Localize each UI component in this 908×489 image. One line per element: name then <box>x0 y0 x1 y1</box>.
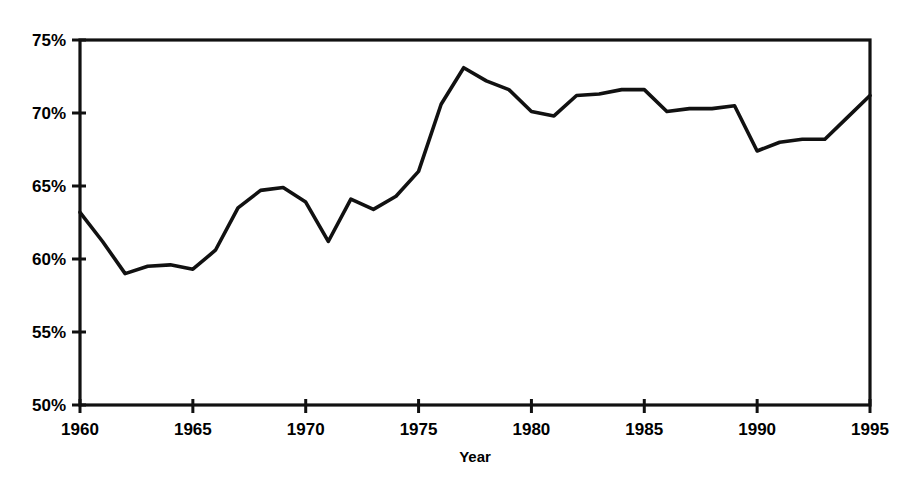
x-tick-label: 1990 <box>738 420 776 439</box>
y-tick-label: 70% <box>32 104 66 123</box>
plot-area-frame <box>80 40 870 405</box>
x-tick-label: 1965 <box>174 420 212 439</box>
x-tick-label: 1985 <box>625 420 663 439</box>
x-tick-label: 1970 <box>287 420 325 439</box>
y-tick-label: 65% <box>32 177 66 196</box>
x-axis-title: Year <box>459 448 491 465</box>
x-tick-label: 1980 <box>513 420 551 439</box>
x-tick-label: 1975 <box>400 420 438 439</box>
x-tick-label: 1960 <box>61 420 99 439</box>
x-tick-label: 1995 <box>851 420 889 439</box>
y-tick-label: 50% <box>32 396 66 415</box>
y-tick-label: 75% <box>32 31 66 50</box>
line-chart: 50%55%60%65%70%75% 196019651970197519801… <box>0 0 908 489</box>
chart-canvas: 50%55%60%65%70%75% 196019651970197519801… <box>0 0 908 489</box>
y-tick-label: 60% <box>32 250 66 269</box>
y-tick-label: 55% <box>32 323 66 342</box>
